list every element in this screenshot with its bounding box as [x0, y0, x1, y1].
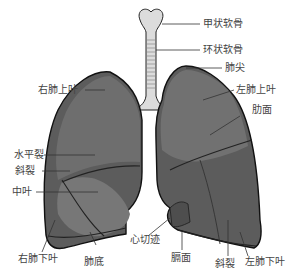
label-cardiac-notch: 心切迹: [130, 234, 160, 246]
label-left-upper-lobe: 左肺上叶: [236, 84, 276, 96]
label-oblique-fissure-right: 斜裂: [15, 165, 35, 177]
right-lung: [44, 72, 142, 249]
label-oblique-fissure-left: 斜裂: [215, 258, 235, 270]
label-horizontal-fissure: 水平裂: [14, 149, 44, 161]
label-diaphragmatic-surface: 膈面: [171, 252, 191, 264]
label-base: 肺底: [84, 256, 104, 268]
label-apex: 肺尖: [225, 62, 245, 74]
label-right-upper-lobe: 右肺上叶: [38, 84, 78, 96]
label-right-lower-lobe: 右肺下叶: [18, 253, 58, 265]
label-left-lower-lobe: 左肺下叶: [245, 256, 285, 268]
label-cricoid-cartilage: 环状软骨: [203, 44, 243, 56]
lung-diagram: 甲状软骨 环状软骨 肺尖 左肺上叶 肋面 右肺上叶 水平裂 斜裂 中叶 右肺下叶…: [0, 0, 295, 280]
label-middle-lobe: 中叶: [12, 186, 32, 198]
label-costal-surface: 肋面: [252, 104, 272, 116]
label-thyroid-cartilage: 甲状软骨: [203, 18, 243, 30]
